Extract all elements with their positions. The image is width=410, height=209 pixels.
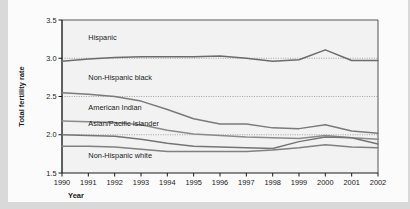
x-tick-label: 1994 [159, 178, 175, 187]
fertility-rate-line-chart: 1.52.02.53.03.51990199119921993199419951… [8, 0, 408, 202]
series-label-hispanic: Hispanic [88, 33, 117, 42]
series-label-asian-pacific-islander: Asian/Pacific Islander [88, 119, 159, 128]
chart-figure: 1.52.02.53.03.51990199119921993199419951… [8, 0, 408, 202]
x-tick-label: 1995 [185, 178, 201, 187]
x-tick-label: 1998 [264, 178, 280, 187]
x-tick-label: 2002 [370, 178, 386, 187]
x-axis-title: Year [68, 191, 84, 200]
y-tick-label: 2.5 [46, 92, 56, 101]
x-tick-label: 1993 [133, 178, 149, 187]
x-tick-label: 2000 [317, 178, 333, 187]
x-tick-label: 1997 [238, 178, 254, 187]
y-tick-label: 2.0 [46, 130, 56, 139]
y-tick-label: 1.5 [46, 169, 56, 178]
x-tick-label: 1991 [80, 178, 96, 187]
y-axis-title: Total fertility rate [17, 66, 26, 126]
chart-plot-area: 1.52.02.53.03.51990199119921993199419951… [8, 0, 408, 202]
x-tick-label: 2001 [343, 178, 359, 187]
x-tick-label: 1999 [291, 178, 307, 187]
series-label-non-hispanic-black: Non-Hispanic black [88, 73, 152, 82]
y-tick-label: 3.5 [46, 16, 56, 25]
series-label-american-indian: American Indian [88, 103, 141, 112]
series-label-non-hispanic-white: Non-Hispanic white [88, 151, 152, 160]
y-tick-label: 3.0 [46, 54, 56, 63]
x-tick-label: 1992 [106, 178, 122, 187]
x-tick-label: 1990 [54, 178, 70, 187]
x-tick-label: 1996 [212, 178, 228, 187]
